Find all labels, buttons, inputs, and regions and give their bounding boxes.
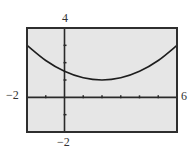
- x-max-label: 6: [181, 90, 187, 102]
- chart-canvas: [0, 0, 194, 149]
- y-max-label: 4: [62, 12, 68, 24]
- x-min-label: −2: [6, 89, 19, 101]
- y-min-label: −2: [57, 136, 70, 148]
